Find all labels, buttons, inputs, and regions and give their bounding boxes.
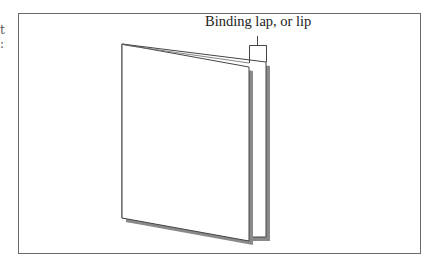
binding-lip-bracket [250,36,267,63]
front-cover [122,44,249,241]
booklet-illustration [0,0,437,266]
